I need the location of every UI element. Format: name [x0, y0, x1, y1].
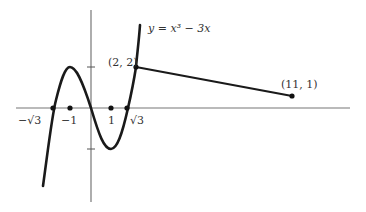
point-11-1: [289, 93, 294, 98]
line-segment: [136, 67, 292, 96]
tick-label-1: 1: [108, 114, 115, 127]
point-neg1: [67, 105, 72, 110]
curve-label: y = x³ − 3x: [147, 22, 211, 35]
tick-label-sqrt3: √3: [130, 114, 144, 127]
tick-label-neg1: −1: [61, 114, 77, 127]
point-1: [108, 105, 113, 110]
function-graph: y = x³ − 3x (2, 2) (11, 1) −√3 −1 1 √3: [0, 0, 366, 212]
point-label-2-2: (2, 2): [108, 56, 138, 69]
tick-label-neg-sqrt3: −√3: [18, 114, 41, 127]
point-sqrt3: [124, 105, 129, 110]
point-neg-sqrt3: [50, 105, 55, 110]
point-label-11-1: (11, 1): [281, 78, 318, 91]
